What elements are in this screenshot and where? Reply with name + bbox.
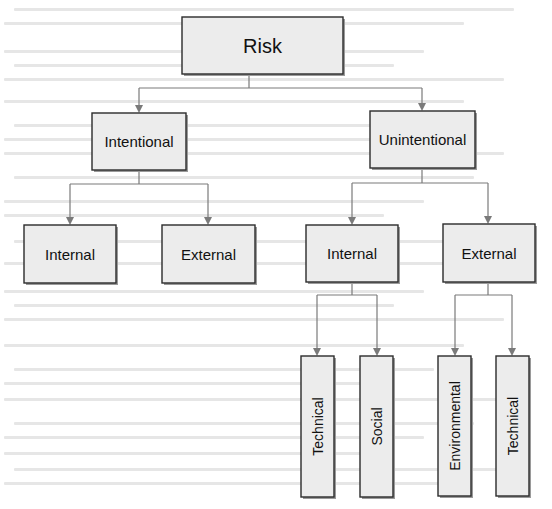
- node-technical-external: Technical: [496, 356, 531, 498]
- node-social: Social: [360, 356, 395, 499]
- arrowhead-icon: [135, 105, 143, 113]
- edge-group-unintentional: [348, 168, 492, 225]
- node-label: Risk: [243, 35, 283, 57]
- edge-group-intentional: [66, 170, 212, 225]
- node-int-internal: Internal: [24, 225, 118, 285]
- node-technical-internal: Technical: [301, 356, 336, 499]
- edge-group-unint-external: [451, 282, 516, 356]
- node-environmental: Environmental: [438, 356, 473, 498]
- node-intentional: Intentional: [92, 113, 188, 172]
- arrowhead-icon: [373, 348, 381, 356]
- diagram-nodes: RiskIntentionalUnintentionalInternalExte…: [24, 17, 537, 499]
- arrowhead-icon: [348, 217, 356, 225]
- node-label: Intentional: [104, 133, 173, 150]
- arrowhead-icon: [204, 217, 212, 225]
- arrowhead-icon: [508, 348, 516, 356]
- scanned-page: RiskIntentionalUnintentionalInternalExte…: [0, 0, 552, 509]
- node-label: Technical: [310, 397, 326, 455]
- node-int-external: External: [162, 225, 257, 285]
- node-label: Unintentional: [379, 131, 467, 148]
- node-unint-external: External: [443, 224, 537, 284]
- arrowhead-icon: [451, 348, 459, 356]
- node-label: Internal: [327, 245, 377, 262]
- edge-group-unint-internal: [313, 282, 381, 356]
- node-label: Internal: [45, 246, 95, 263]
- node-unint-internal: Internal: [306, 225, 400, 284]
- node-label: External: [181, 246, 236, 263]
- edge-group-risk: [135, 74, 426, 113]
- node-risk: Risk: [182, 17, 345, 76]
- node-unintentional: Unintentional: [370, 111, 477, 170]
- node-label: External: [461, 245, 516, 262]
- node-label: Social: [369, 407, 385, 445]
- arrowhead-icon: [484, 216, 492, 224]
- arrowhead-icon: [418, 103, 426, 111]
- arrowhead-icon: [313, 348, 321, 356]
- arrowhead-icon: [66, 217, 74, 225]
- risk-tree-diagram: RiskIntentionalUnintentionalInternalExte…: [0, 0, 552, 509]
- node-label: Technical: [505, 397, 521, 455]
- node-label: Environmental: [447, 381, 463, 471]
